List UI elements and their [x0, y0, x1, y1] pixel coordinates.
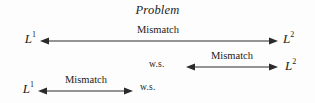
- row-2-right-endpoint: L2: [285, 59, 296, 72]
- row-3-arrow: [38, 82, 133, 100]
- row-3-left-endpoint: L1: [23, 82, 34, 95]
- problem-diagram: Problem L1 Mismatch L2 w.s. Mismatch L2 …: [0, 0, 315, 103]
- row-2-left-endpoint: w.s.: [149, 60, 165, 70]
- row-3-arrow-head-right: [124, 88, 133, 95]
- row-3-right-endpoint: w.s.: [140, 83, 156, 93]
- row-1-arrow-head-left: [40, 38, 49, 45]
- row-1-arrow: [40, 32, 278, 50]
- figure-title: Problem: [0, 3, 315, 18]
- row-2-arrow: [186, 58, 278, 76]
- row-1-left-endpoint: L1: [25, 32, 36, 45]
- row-1-arrow-head-right: [269, 38, 278, 45]
- row-2-right-superscript: 2: [292, 57, 296, 66]
- row-2-arrow-head-right: [269, 64, 278, 71]
- row-1-right-endpoint: L2: [283, 32, 294, 45]
- row-1-left-superscript: 1: [32, 30, 36, 39]
- row-3-arrow-head-left: [38, 88, 47, 95]
- row-3-left-superscript: 1: [30, 80, 34, 89]
- row-1-right-superscript: 2: [290, 30, 294, 39]
- row-2-arrow-head-left: [186, 64, 195, 71]
